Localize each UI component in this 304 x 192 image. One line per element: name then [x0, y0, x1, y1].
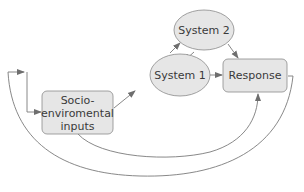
- node-socio-environmental-inputs: Socio- enviromental inputs: [41, 91, 114, 134]
- node-socio-label-line-3: inputs: [60, 120, 94, 133]
- node-system2-label: System 2: [178, 24, 230, 37]
- node-system2: System 2: [174, 10, 234, 50]
- node-response: Response: [223, 59, 287, 92]
- edge-loop-into-socio: [27, 72, 41, 112]
- diagram-canvas: System 2 System 1 Response Socio- enviro…: [0, 0, 304, 192]
- node-socio-label-line-1: Socio-: [61, 94, 95, 107]
- node-socio-label-line-2: enviromental: [41, 107, 114, 120]
- edge-socio-to-system1: [114, 91, 135, 108]
- node-system1: System 1: [150, 54, 210, 96]
- node-system1-label: System 1: [154, 69, 206, 82]
- node-response-label: Response: [229, 69, 282, 82]
- edge-system1-to-system2: [170, 43, 180, 53]
- edge-system2-to-response: [228, 44, 238, 58]
